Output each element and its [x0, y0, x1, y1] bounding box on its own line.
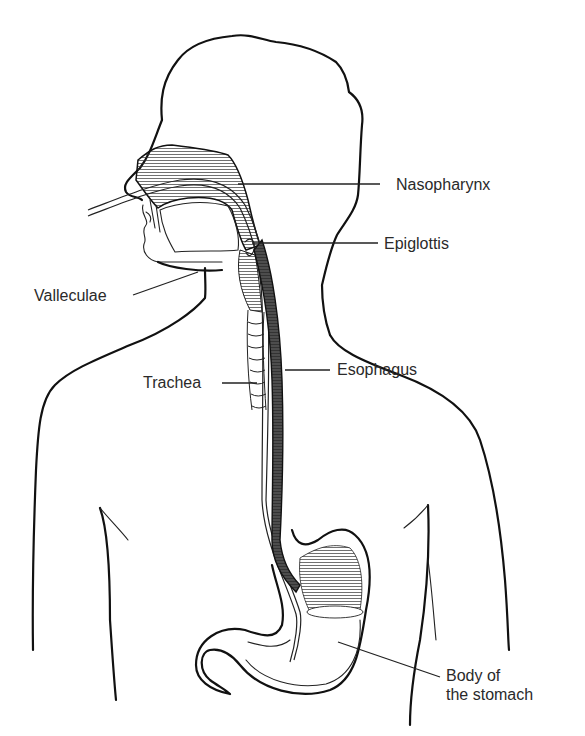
label-epiglottis: Epiglottis — [384, 234, 449, 253]
leader-valleculae — [133, 272, 198, 295]
label-valleculae: Valleculae — [34, 286, 107, 305]
leader-body-of-stomach — [338, 642, 440, 677]
anatomy-diagram: Nasopharynx Epiglottis Valleculae Trache… — [0, 0, 585, 736]
label-trachea: Trachea — [143, 373, 201, 392]
label-nasopharynx: Nasopharynx — [396, 175, 490, 194]
label-esophagus: Esophagus — [337, 360, 417, 379]
label-body-of-stomach: Body of the stomach — [446, 666, 533, 704]
leader-lines — [0, 0, 585, 736]
